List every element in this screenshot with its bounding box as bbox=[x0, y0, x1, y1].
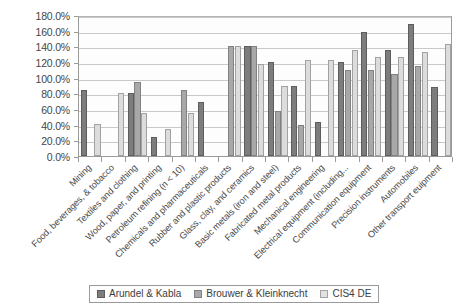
bar bbox=[345, 70, 351, 156]
y-axis-tick-label: 120.0% bbox=[36, 58, 70, 68]
y-axis-tick-label: 40.0% bbox=[41, 121, 70, 131]
bar bbox=[291, 86, 297, 157]
bars-layer bbox=[79, 17, 451, 156]
bar bbox=[244, 46, 250, 156]
bar bbox=[81, 90, 87, 156]
bar bbox=[258, 64, 264, 156]
bar bbox=[375, 57, 381, 156]
plot-area bbox=[78, 16, 452, 157]
bar-group bbox=[336, 17, 359, 156]
bar bbox=[128, 93, 134, 156]
bar bbox=[431, 87, 437, 156]
bar-group bbox=[219, 17, 242, 156]
bar bbox=[235, 46, 241, 156]
legend-item[interactable]: Arundel & Kabla bbox=[97, 289, 181, 299]
bar bbox=[328, 60, 334, 156]
bar-group bbox=[173, 17, 196, 156]
bar bbox=[165, 129, 171, 156]
bar-group bbox=[383, 17, 406, 156]
bar-group bbox=[102, 17, 125, 156]
y-axis-tick-label: 160.0% bbox=[36, 27, 70, 37]
y-axis-tick-label: 140.0% bbox=[36, 42, 70, 52]
bar bbox=[181, 90, 187, 156]
bar bbox=[352, 50, 358, 156]
bar bbox=[385, 50, 391, 156]
legend-swatch-icon bbox=[97, 290, 105, 298]
bar bbox=[141, 113, 147, 156]
legend-item[interactable]: Brouwer & Kleinknecht bbox=[194, 289, 307, 299]
bar-chart-figure: 0.0%20.0%40.0%60.0%80.0%100.0%120.0%140.… bbox=[0, 0, 460, 308]
bar-group bbox=[360, 17, 383, 156]
bar bbox=[305, 60, 311, 156]
bar-group bbox=[430, 17, 452, 156]
y-axis-tick-label: 100.0% bbox=[36, 74, 70, 84]
chart-legend: Arundel & KablaBrouwer & KleinknechtCIS4… bbox=[89, 285, 379, 303]
bar bbox=[391, 74, 397, 156]
bar bbox=[368, 70, 374, 156]
bar-group bbox=[196, 17, 219, 156]
bar bbox=[228, 46, 234, 156]
bar bbox=[188, 113, 194, 156]
bar bbox=[398, 57, 404, 156]
y-axis-tick-label: 80.0% bbox=[41, 89, 70, 99]
legend-swatch-icon bbox=[320, 290, 328, 298]
bar bbox=[415, 66, 421, 156]
bar-group bbox=[406, 17, 429, 156]
x-axis-labels: MiningFood, beverages, & tobaccoTextiles… bbox=[0, 160, 460, 278]
bar bbox=[268, 62, 274, 156]
legend-label: Arundel & Kabla bbox=[109, 289, 181, 299]
bar bbox=[275, 111, 281, 156]
bar bbox=[118, 93, 124, 156]
bar bbox=[134, 82, 140, 156]
bar bbox=[94, 124, 100, 156]
bar-group bbox=[243, 17, 266, 156]
bar-group bbox=[149, 17, 172, 156]
legend-item[interactable]: CIS4 DE bbox=[320, 289, 371, 299]
bar-group bbox=[79, 17, 102, 156]
bar bbox=[298, 125, 304, 156]
bar bbox=[422, 52, 428, 156]
legend-label: Brouwer & Kleinknecht bbox=[206, 289, 307, 299]
bar bbox=[445, 44, 451, 156]
y-axis-tick-label: 180.0% bbox=[36, 11, 70, 21]
bar bbox=[281, 86, 287, 157]
bar bbox=[361, 32, 367, 156]
y-axis: 0.0%20.0%40.0%60.0%80.0%100.0%120.0%140.… bbox=[0, 0, 74, 175]
legend-label: CIS4 DE bbox=[332, 289, 371, 299]
bar-group bbox=[126, 17, 149, 156]
y-axis-tick-label: 60.0% bbox=[41, 105, 70, 115]
bar bbox=[151, 137, 157, 156]
bar bbox=[338, 62, 344, 156]
bar bbox=[251, 46, 257, 156]
bar bbox=[408, 24, 414, 156]
bar-group bbox=[289, 17, 312, 156]
bar bbox=[198, 102, 204, 156]
bar-group bbox=[266, 17, 289, 156]
bar bbox=[315, 122, 321, 156]
legend-swatch-icon bbox=[194, 290, 202, 298]
bar-group bbox=[313, 17, 336, 156]
y-axis-tick-label: 20.0% bbox=[41, 136, 70, 146]
